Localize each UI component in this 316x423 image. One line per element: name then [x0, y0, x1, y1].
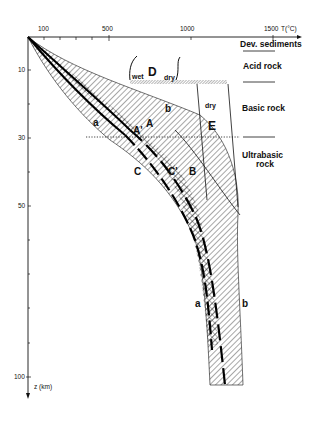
curve-label-b-lower: b [242, 298, 248, 309]
x-tick-100: 100 [38, 25, 49, 32]
region-D-hatched-bar [130, 80, 227, 84]
x-tick-1000: 1000 [180, 25, 195, 32]
region-D-label: D [148, 65, 157, 79]
y-tick-10: 10 [18, 66, 26, 73]
x-axis-label: T(°C) [281, 25, 297, 33]
y-tick-50: 50 [18, 202, 26, 209]
y-tick-30: 30 [18, 134, 26, 141]
region-D-dry-bracket [176, 57, 180, 80]
curve-label-C: C [134, 166, 141, 177]
y-axis-label: z (km) [34, 383, 52, 391]
curve-label-A: A [146, 118, 153, 129]
curve-label-a-upper: a [93, 117, 99, 128]
curve-label-A-prime: A' [133, 125, 143, 136]
rock-label-acid: Acid rock [243, 61, 282, 71]
x-ticks [44, 35, 273, 41]
curve-label-C-prime: C' [168, 166, 178, 177]
curve-label-B: B [189, 166, 196, 177]
y-axis-arrow-icon [26, 393, 30, 399]
region-E-label: E [208, 119, 216, 133]
region-D-wet-label: wet [131, 73, 144, 80]
curve-label-a-lower: a [195, 298, 201, 309]
y-ticks [26, 70, 31, 377]
rock-label-basic: Basic rock [242, 103, 285, 113]
region-D-dry-label: dry [164, 74, 175, 82]
curve-label-b-upper: b [165, 103, 171, 114]
x-tick-500: 500 [102, 25, 113, 32]
x-tick-1500: 1500 [264, 25, 279, 32]
y-tick-100: 100 [14, 373, 25, 380]
rock-label-ultrabasic-2: rock [256, 159, 274, 169]
region-E-dry-label: dry [205, 102, 216, 110]
rock-label-dev-sediments: Dev. sediments [240, 39, 302, 49]
geotherm-diagram: 100 500 1000 1500 T(°C) 10 30 50 100 z (… [0, 0, 316, 423]
